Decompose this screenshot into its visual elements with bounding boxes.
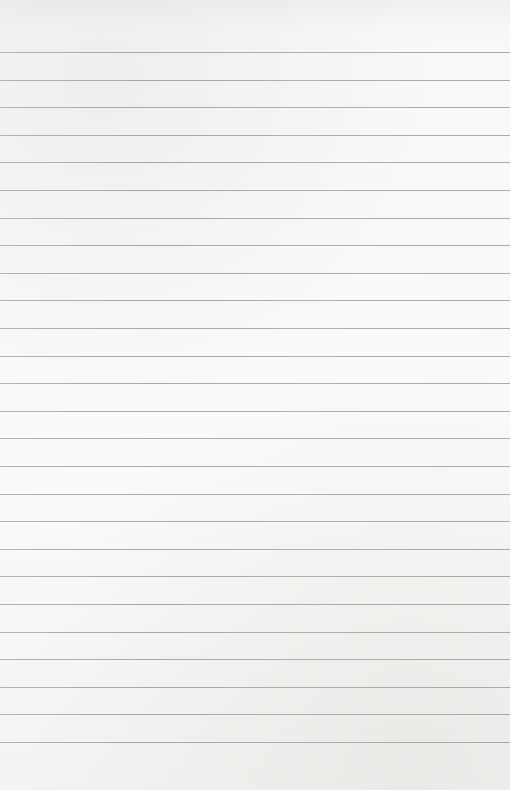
- ruled-line: [0, 245, 510, 246]
- ruled-line: [0, 411, 510, 412]
- ruled-line: [0, 273, 510, 274]
- ruled-line: [0, 632, 510, 633]
- ruled-line: [0, 466, 510, 467]
- ruled-line: [0, 494, 510, 495]
- ruled-line: [0, 604, 510, 605]
- ruled-line: [0, 576, 510, 577]
- ruled-line: [0, 549, 510, 550]
- ruled-line: [0, 438, 510, 439]
- ruled-line: [0, 107, 510, 108]
- ruled-line: [0, 218, 510, 219]
- lined-paper-sheet: [0, 0, 510, 790]
- ruled-line: [0, 328, 510, 329]
- ruled-line: [0, 135, 510, 136]
- ruled-line: [0, 521, 510, 522]
- ruled-line: [0, 80, 510, 81]
- ruled-line: [0, 300, 510, 301]
- ruled-line: [0, 190, 510, 191]
- ruled-line: [0, 687, 510, 688]
- ruled-lines: [0, 0, 510, 790]
- ruled-line: [0, 742, 510, 743]
- ruled-line: [0, 714, 510, 715]
- ruled-line: [0, 52, 510, 53]
- ruled-line: [0, 356, 510, 357]
- ruled-line: [0, 162, 510, 163]
- ruled-line: [0, 659, 510, 660]
- ruled-line: [0, 383, 510, 384]
